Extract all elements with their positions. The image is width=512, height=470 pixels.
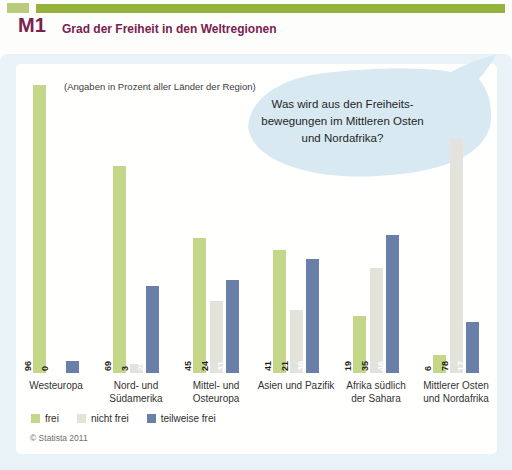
bar-value-label: 41 (262, 331, 275, 371)
bar-value-label: 6 (422, 331, 435, 371)
bar-value-label: 35 (359, 331, 372, 371)
bar-value-label: 31 (215, 331, 228, 371)
bar-value-label: 0 (39, 331, 52, 371)
bar-value-label: 46 (375, 331, 388, 371)
worksheet-page: M1 Grad der Freiheit in den Weltregionen… (0, 0, 512, 470)
legend-item: teilweise frei (147, 413, 216, 424)
bar-value-label: 38 (295, 331, 308, 371)
legend-swatch (147, 414, 156, 423)
bar-value-label: 19 (342, 331, 355, 371)
speech-bubble-line: bewegungen im Mittleren Osten (250, 113, 435, 130)
speech-bubble-line: Was wird aus den Freiheits- (250, 96, 435, 113)
legend-swatch (77, 414, 86, 423)
category-label: Mittlerer Ostenund Nordafrika (401, 379, 511, 405)
speech-bubble-text: Was wird aus den Freiheits- bewegungen i… (250, 96, 435, 147)
category-label-line: Mittlerer Osten (401, 379, 511, 392)
bar-value-label: 3 (119, 331, 132, 371)
bar-value-label: 4 (55, 331, 68, 371)
material-title: Grad der Freiheit in den Weltregionen (62, 22, 276, 36)
material-code: M1 (18, 14, 46, 37)
bar-value-label: 17 (455, 331, 468, 371)
category-label-line: Osteuropa (161, 392, 271, 405)
legend-swatch (31, 414, 40, 423)
legend-item: nicht frei (77, 413, 129, 424)
bar-value-label: 96 (22, 331, 35, 371)
header-accent-bar (36, 4, 505, 13)
copyright: © Statista 2011 (30, 433, 88, 443)
bar-value-label: 29 (135, 331, 148, 371)
bar-value-label: 21 (279, 331, 292, 371)
bar-frei-0 (33, 85, 46, 373)
legend-label: nicht frei (91, 413, 129, 424)
speech-bubble-line: und Nordafrika? (250, 130, 435, 147)
bar-value-label: 69 (102, 331, 115, 371)
legend-label: frei (45, 413, 59, 424)
bar-value-label: 45 (182, 331, 195, 371)
chart-note: (Angaben in Prozent aller Länder der Reg… (64, 81, 256, 92)
chart-legend: freinicht freiteilweise frei (31, 413, 216, 424)
header-accent-square (7, 3, 29, 13)
legend-item: frei (31, 413, 59, 424)
legend-label: teilweise frei (161, 413, 216, 424)
bar-value-label: 24 (199, 331, 212, 371)
category-label-line: und Nordafrika (401, 392, 511, 405)
bar-value-label: 78 (439, 331, 452, 371)
